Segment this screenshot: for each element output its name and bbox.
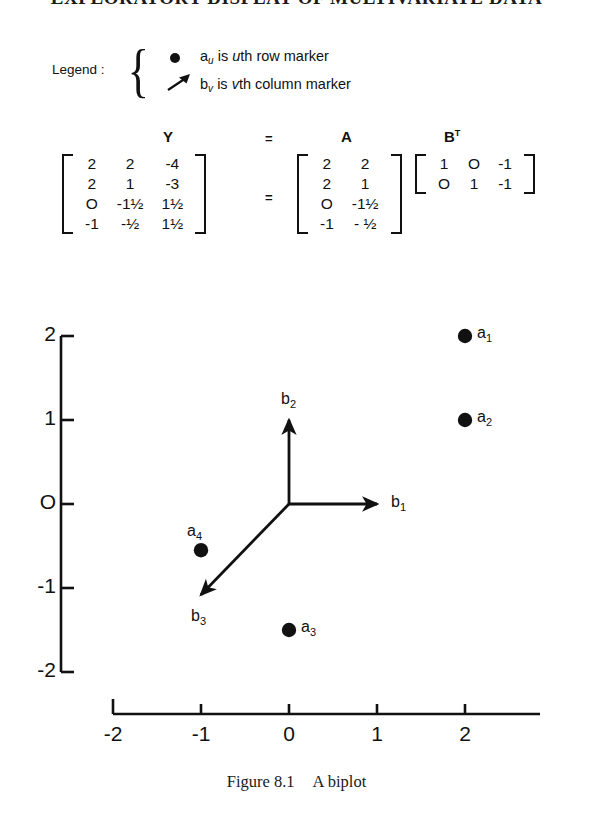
x-axis-tick-label: 1 <box>352 722 402 746</box>
caption-title: A biplot <box>313 772 367 791</box>
y-axis-tick-label: O <box>26 490 56 514</box>
row-marker-label: a3 <box>301 618 316 638</box>
x-axis-tick-label: 0 <box>264 722 314 746</box>
column-marker-vector <box>201 504 289 595</box>
y-axis-tick-label: 1 <box>26 406 56 430</box>
x-axis-tick-label: 2 <box>440 722 490 746</box>
y-axis-tick-label: -1 <box>26 574 56 598</box>
y-axis-tick-label: 2 <box>26 322 56 346</box>
x-axis-tick-label: -1 <box>176 722 226 746</box>
column-marker-label: b2 <box>281 390 296 410</box>
figure-caption: Figure 8.1A biplot <box>0 772 593 792</box>
biplot-svg <box>0 0 593 760</box>
row-marker-point <box>458 329 472 343</box>
x-axis-tick-label: -2 <box>88 722 138 746</box>
row-marker-point <box>458 413 472 427</box>
figure-page: EXPLORATORY DISPLAY OF MULTIVARIATE DATA… <box>0 0 593 831</box>
row-marker-label: a4 <box>187 522 202 542</box>
caption-number: Figure 8.1 <box>227 772 295 791</box>
row-marker-label: a2 <box>477 408 492 428</box>
biplot: 21O-1-2-2-1012 b1b2b3a1a2a3a4 <box>0 0 593 760</box>
column-marker-label: b3 <box>191 607 206 627</box>
column-marker-label: b1 <box>391 493 406 513</box>
row-marker-point <box>282 623 296 637</box>
row-marker-label: a1 <box>477 324 492 344</box>
y-axis-tick-label: -2 <box>26 658 56 682</box>
row-marker-point <box>194 543 208 557</box>
